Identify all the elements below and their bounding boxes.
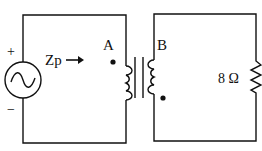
arrow-right-icon	[66, 56, 84, 64]
secondary-loop	[154, 14, 256, 141]
transformer-core	[135, 57, 143, 98]
primary-loop	[23, 15, 126, 143]
resistor-icon	[251, 58, 261, 96]
circuit-diagram: + − Zp A B 8 Ω	[0, 0, 262, 151]
primary-coil-icon	[126, 66, 132, 100]
impedance-label: Zp	[45, 52, 62, 68]
secondary-coil-icon	[148, 60, 154, 94]
source-minus-label: −	[7, 102, 15, 117]
ac-source-icon	[5, 62, 41, 98]
secondary-polarity-dot	[160, 95, 165, 100]
primary-label-a: A	[103, 37, 114, 53]
primary-polarity-dot	[110, 59, 115, 64]
resistor-value-label: 8 Ω	[218, 71, 239, 86]
source-plus-label: +	[7, 44, 15, 59]
secondary-label-b: B	[157, 37, 167, 53]
